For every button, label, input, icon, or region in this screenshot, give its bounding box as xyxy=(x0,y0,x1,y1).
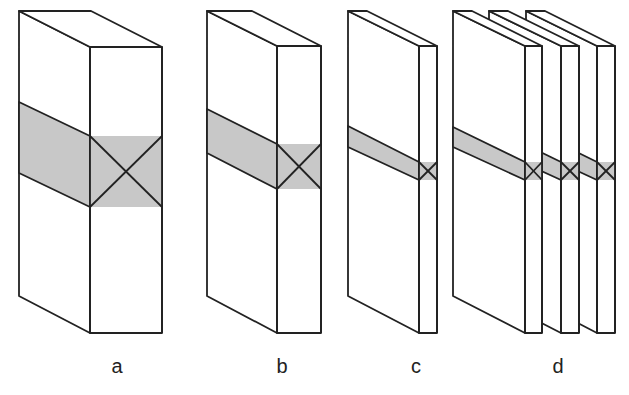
blocks-figure xyxy=(0,0,629,395)
block-c xyxy=(348,11,437,333)
label-b: b xyxy=(276,355,287,378)
label-c: c xyxy=(411,355,421,378)
label-d: d xyxy=(552,355,563,378)
block-d xyxy=(453,11,615,333)
label-a: a xyxy=(111,355,122,378)
slab-1 xyxy=(453,11,542,333)
block-b xyxy=(207,11,321,333)
block-a xyxy=(19,11,162,333)
diagram: a b c d xyxy=(0,0,629,395)
